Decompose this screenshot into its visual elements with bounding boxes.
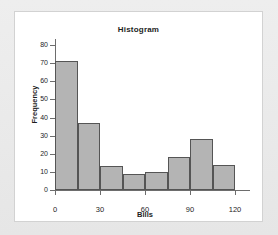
x-axis-title: Bills — [55, 210, 235, 219]
y-axis-tick-label: 10 — [18, 168, 48, 175]
histogram-bar — [100, 166, 123, 190]
histogram-bar — [190, 139, 213, 190]
chart-panel: Histogram 01020304050607080 0306090120 B… — [14, 11, 263, 222]
y-axis-tick-label-wrap: 10 — [15, 168, 48, 169]
x-axis-line — [55, 190, 250, 191]
y-axis-tick-label: 20 — [18, 150, 48, 157]
histogram-bar — [55, 61, 78, 190]
y-axis-tick-label-wrap: 0 — [15, 186, 48, 187]
histogram-bar — [145, 172, 168, 190]
y-axis-tick-label: 80 — [18, 41, 48, 48]
y-axis-tick-label-wrap: 20 — [15, 150, 48, 151]
histogram-bar — [213, 165, 236, 190]
histogram-bar — [168, 157, 191, 190]
histogram-bar — [123, 174, 146, 190]
y-axis-tick-label: 70 — [18, 59, 48, 66]
plot-area — [55, 45, 235, 190]
x-axis-tick — [100, 190, 101, 195]
x-axis-tick — [190, 190, 191, 195]
figure-root: Histogram 01020304050607080 0306090120 B… — [0, 0, 278, 235]
x-axis-tick — [145, 190, 146, 195]
y-axis-tick-label-wrap: 70 — [15, 59, 48, 60]
histogram-bar — [78, 123, 101, 190]
histogram-bars — [55, 45, 235, 190]
y-axis-tick-label: 0 — [18, 186, 48, 193]
chart-title: Histogram — [15, 25, 262, 34]
x-axis-tick — [235, 190, 236, 195]
y-axis-tick-label-wrap: 80 — [15, 41, 48, 42]
x-axis-tick — [55, 190, 56, 195]
y-axis-title: Frequency — [30, 70, 39, 140]
